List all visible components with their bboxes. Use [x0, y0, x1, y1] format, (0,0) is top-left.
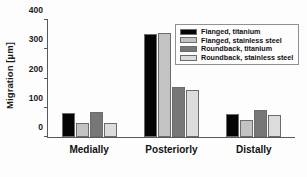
bar — [172, 87, 185, 137]
x-axis-category-label: Medially — [69, 144, 108, 155]
bar-chart-figure: Migration [µm] 0100200300400 MediallyPos… — [0, 0, 307, 177]
y-axis-tick-label: 100 — [29, 93, 43, 103]
legend-item: Roundback, titanium — [180, 45, 293, 52]
legend-item-label: Roundback, titanium — [201, 45, 272, 52]
bar — [240, 120, 253, 137]
legend-item-label: Flanged, titanium — [201, 28, 261, 35]
y-axis-tick-label: 400 — [29, 5, 43, 15]
legend-swatch — [180, 37, 197, 43]
bar — [104, 123, 117, 137]
x-axis-category-label: Distally — [236, 144, 272, 155]
legend-item: Flanged, titanium — [180, 28, 293, 35]
bar — [90, 112, 103, 137]
bar — [226, 114, 239, 137]
y-axis-tick-label: 300 — [29, 34, 43, 44]
legend-swatch — [180, 55, 197, 61]
legend-swatch — [180, 29, 197, 35]
y-axis-label-text: Migration [µm] — [5, 41, 16, 108]
legend-item-label: Roundback, stainless steel — [201, 54, 293, 61]
legend-swatch — [180, 46, 197, 52]
bar — [186, 90, 199, 137]
bar-group: Medially — [62, 19, 117, 137]
plot-area: 0100200300400 MediallyPosteriorlyDistall… — [47, 20, 295, 138]
bar — [254, 110, 267, 137]
legend-item-label: Flanged, stainless steel — [201, 37, 282, 44]
y-axis-label: Migration [µm] — [2, 0, 18, 150]
bar — [268, 115, 281, 137]
chart-legend: Flanged, titaniumFlanged, stainless stee… — [175, 24, 299, 65]
bar — [144, 34, 157, 137]
x-axis-category-label: Posteriorly — [145, 144, 197, 155]
bar — [62, 113, 75, 137]
legend-item: Flanged, stainless steel — [180, 37, 293, 44]
bar — [76, 123, 89, 137]
bar — [158, 33, 171, 137]
legend-item: Roundback, stainless steel — [180, 54, 293, 61]
y-axis-tick-label: 200 — [29, 64, 43, 74]
y-axis-tick-label: 0 — [38, 122, 43, 132]
